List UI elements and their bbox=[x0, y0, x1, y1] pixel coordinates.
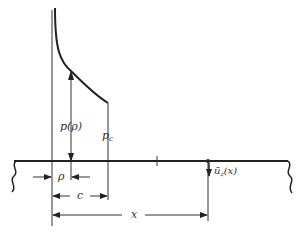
label-c: c bbox=[77, 189, 83, 202]
label-pressure-edge: pc bbox=[102, 129, 113, 143]
label-displacement: ūz(x) bbox=[214, 165, 237, 177]
break-left-icon bbox=[12, 161, 16, 192]
label-pressure: p(ρ) bbox=[60, 120, 82, 133]
break-right-icon bbox=[288, 161, 292, 193]
diagram-canvas: p(ρ) pc ρ c x ūz(x) bbox=[0, 0, 302, 232]
pressure-arrowhead-top-icon bbox=[68, 70, 74, 80]
label-x: x bbox=[131, 208, 138, 221]
pressure-curve bbox=[55, 8, 108, 103]
label-rho: ρ bbox=[57, 170, 65, 183]
